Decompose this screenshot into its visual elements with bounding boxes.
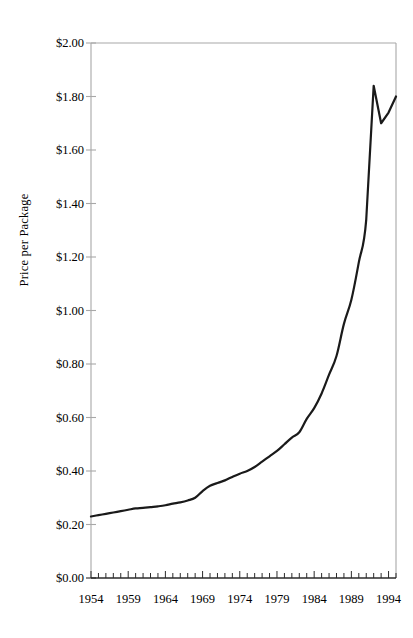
chart-tick-marks	[86, 43, 396, 578]
chart-plot-area	[0, 0, 413, 638]
chart-axes	[91, 43, 396, 578]
price-line-series	[91, 86, 396, 517]
chart-figure: Price per Package $2.00$1.80$1.60$1.40$1…	[0, 0, 413, 638]
